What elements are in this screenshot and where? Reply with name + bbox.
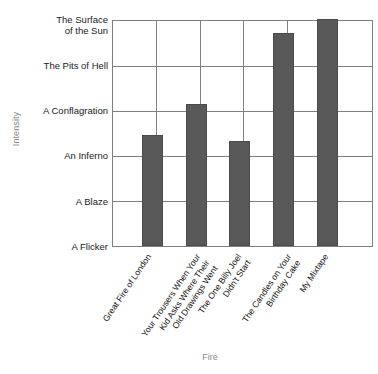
y-tick-label-the-pits-of-hell: The Pits of Hell (0, 60, 108, 71)
y-tick-label-an-inferno: An Inferno (0, 150, 108, 161)
x-axis-title: Fire (180, 352, 240, 362)
bar-your-trousers[interactable] (186, 104, 207, 246)
y-tick-label-a-conflagration: A Conflagration (0, 105, 108, 116)
bar-the-one-billy-joel-didnt-start[interactable] (229, 141, 250, 246)
bar-chart: Intensity The Surface of the Sun The Pit… (0, 0, 378, 374)
y-tick-label-the-surface-of-the-sun: The Surface of the Sun (0, 14, 108, 36)
y-tick-label-a-blaze: A Blaze (0, 196, 108, 207)
plot-area (112, 20, 373, 247)
bar-candles-on-birthday-cake[interactable] (273, 33, 294, 246)
y-tick-label-a-flicker: A Flicker (0, 241, 108, 252)
bar-great-fire-of-london[interactable] (142, 135, 163, 246)
bar-my-mixtape[interactable] (317, 19, 338, 246)
